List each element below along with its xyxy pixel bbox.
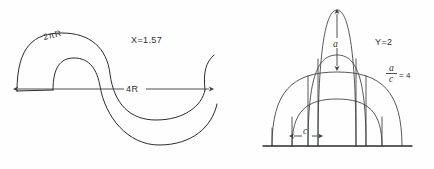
ratio-expression: a c = 4 [386, 63, 411, 84]
arch-outer [272, 72, 402, 146]
figure-canvas: 2πR X=1.57 4R [0, 0, 434, 169]
band-outer-tail [204, 55, 214, 90]
ratio-value: = 4 [399, 71, 411, 80]
arch-third [308, 55, 366, 146]
band-left-cap [17, 90, 53, 91]
y-value-label: Y=2 [375, 37, 392, 47]
band-outer-curve [17, 33, 205, 120]
width-label: c [303, 126, 308, 136]
band-inner-curve [53, 58, 217, 145]
right-figure-group: a c Y=2 a c = 4 [263, 10, 412, 146]
x-value-label: X=1.57 [131, 35, 162, 45]
height-label: a [333, 39, 338, 49]
diagram-svg: 2πR X=1.57 4R [0, 0, 434, 169]
span-label: 4R [126, 84, 138, 94]
ratio-numerator: a [389, 63, 394, 73]
arch-second [292, 99, 382, 146]
left-figure-group: 2πR X=1.57 4R [17, 28, 217, 145]
arc-length-label: 2πR [42, 28, 62, 42]
ratio-denominator: c [389, 74, 394, 84]
